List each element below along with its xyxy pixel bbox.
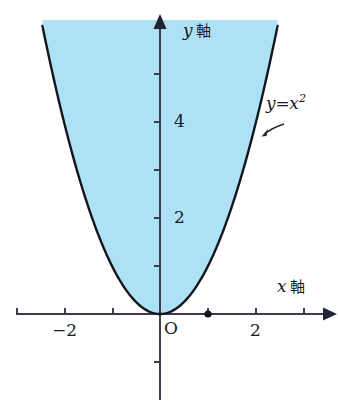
y-axis-label-word: 軸 [196, 22, 211, 40]
x-axis-label-word: 軸 [290, 278, 305, 296]
curve-equation-rhs-base: x [289, 93, 299, 113]
y-axis-label-var: y [183, 20, 193, 40]
figure-canvas: y軸 x軸 y=x2 O 4 2 −2 2 [0, 0, 338, 410]
x-axis-label-var: x [277, 276, 287, 296]
parabola-plot [0, 0, 338, 410]
curve-label-leader-arrow [262, 124, 285, 137]
curve-equation-lhs: y [266, 93, 276, 113]
x-axis-label: x軸 [277, 278, 305, 295]
y-tick-label-4: 4 [174, 113, 185, 130]
origin-label: O [164, 320, 178, 337]
y-tick-label-2: 2 [174, 209, 185, 226]
y-axis-label: y軸 [183, 22, 211, 39]
x-tick-label-2: 2 [250, 322, 261, 339]
x-tick-label-neg2: −2 [52, 322, 77, 339]
curve-equation-operator: = [276, 93, 290, 113]
curve-equation-label: y=x2 [266, 95, 306, 112]
marked-point-dot [204, 310, 211, 317]
curve-equation-rhs-exponent: 2 [299, 92, 306, 105]
